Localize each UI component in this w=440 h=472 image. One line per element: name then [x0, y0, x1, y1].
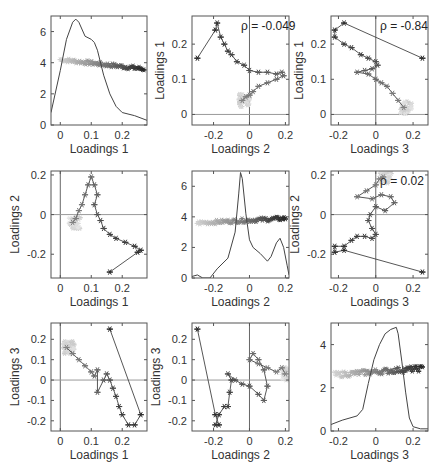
y-tick-label: 4 — [320, 339, 326, 351]
x-tick-label: 0 — [57, 129, 63, 141]
x-tick-label: 0 — [246, 282, 252, 294]
x-tick-label: -0.2 — [329, 129, 348, 141]
y-tick-label: 0.1 — [172, 73, 187, 85]
y-tick-label: 2 — [320, 382, 326, 394]
trajectory-line — [197, 23, 283, 100]
panel-2-3: -0.200.2-0.200.2Loadings 3Loadings 2ρ = … — [288, 169, 428, 309]
x-tick-label: 0 — [373, 435, 379, 447]
x-tick-label: -0.2 — [204, 129, 223, 141]
y-tick-label: 0 — [40, 119, 46, 131]
axes-frame — [51, 171, 147, 278]
panel-1-1: 00.10.20246Loadings 1 — [40, 16, 147, 156]
x-axis-label: Loadings 3 — [350, 142, 409, 156]
panel-2-1: 00.10.2-0.200.2Loadings 1Loadings 2 — [8, 169, 147, 309]
x-axis-label: Loadings 2 — [211, 448, 270, 462]
x-tick-label: 0.2 — [405, 282, 420, 294]
panel-3-2: -0.200.2-0.2-0.100.10.2Loadings 2Loading… — [149, 323, 296, 462]
y-axis-label: Loadings 3 — [149, 347, 163, 406]
y-tick-label: 4 — [40, 57, 46, 69]
x-tick-label: 0 — [57, 282, 63, 294]
y-axis-label: Loadings 1 — [292, 41, 306, 100]
y-tick-label: 0.2 — [172, 333, 187, 345]
x-tick-label: 0 — [57, 435, 63, 447]
panel-3-1: 00.10.2-0.2-0.100.10.2Loadings 1Loadings… — [8, 323, 147, 462]
y-tick-label: 0 — [181, 272, 187, 284]
x-tick-label: -0.2 — [204, 282, 223, 294]
y-axis-label: Loadings 2 — [288, 195, 302, 254]
y-tick-label: -0.1 — [168, 394, 187, 406]
y-tick-label: 0.2 — [172, 38, 187, 50]
y-axis-label: Loadings 1 — [153, 41, 167, 100]
y-tick-label: 0 — [320, 425, 326, 437]
panel-1-2: -0.200.200.10.2Loadings 2Loadings 1ρ = -… — [153, 16, 296, 156]
x-tick-label: 0.2 — [278, 282, 293, 294]
y-tick-label: 0.1 — [172, 354, 187, 366]
y-tick-label: -0.2 — [27, 248, 46, 260]
x-axis-label: Loadings 1 — [70, 142, 129, 156]
x-axis-label: Loadings 1 — [70, 448, 129, 462]
y-tick-label: 4 — [181, 211, 187, 223]
x-tick-label: 0.2 — [405, 129, 420, 141]
y-axis-label: Loadings 2 — [8, 195, 22, 254]
density-curve — [51, 19, 147, 120]
x-tick-label: -0.2 — [329, 282, 348, 294]
y-tick-label: 6 — [181, 180, 187, 192]
y-tick-label: 0.1 — [31, 354, 46, 366]
trajectory-line — [197, 329, 285, 425]
x-axis-label: Loadings 2 — [211, 295, 270, 309]
y-tick-label: -0.2 — [168, 415, 187, 427]
y-tick-label: 0.2 — [311, 38, 326, 50]
x-tick-label: -0.2 — [204, 435, 223, 447]
y-tick-label: -0.2 — [307, 248, 326, 260]
y-tick-label: -0.1 — [27, 394, 46, 406]
panel-3-3: -0.200.2024Loadings 3 — [320, 323, 428, 462]
scatter-matrix-figure: 00.10.20246Loadings 1-0.200.200.10.2Load… — [0, 0, 440, 472]
x-axis-label: Loadings 3 — [350, 295, 409, 309]
y-tick-label: 0 — [40, 374, 46, 386]
x-tick-label: 0.1 — [84, 282, 99, 294]
x-tick-label: 0.2 — [278, 129, 293, 141]
x-tick-label: -0.2 — [329, 435, 348, 447]
correlation-label: ρ = 0.02 — [380, 174, 424, 188]
correlation-label: ρ = -0.049 — [241, 19, 296, 33]
trajectory-line — [335, 177, 423, 272]
panel-1-3: -0.200.200.10.2Loadings 3Loadings 1ρ = -… — [292, 16, 428, 156]
x-axis-label: Loadings 2 — [211, 142, 270, 156]
x-tick-label: 0 — [373, 129, 379, 141]
x-tick-label: 0.1 — [84, 129, 99, 141]
y-tick-label: -0.2 — [27, 415, 46, 427]
y-tick-label: 0 — [320, 209, 326, 221]
x-tick-label: 0 — [373, 282, 379, 294]
y-tick-label: 0 — [181, 108, 187, 120]
y-tick-label: 0 — [181, 374, 187, 386]
y-tick-label: 0 — [40, 209, 46, 221]
x-axis-label: Loadings 1 — [70, 295, 129, 309]
x-tick-label: 0.2 — [115, 282, 130, 294]
y-tick-label: 2 — [181, 241, 187, 253]
x-tick-label: 0.2 — [278, 435, 293, 447]
x-tick-label: 0.1 — [84, 435, 99, 447]
x-axis-label: Loadings 3 — [350, 448, 409, 462]
panel-2-2: -0.200.20246Loadings 2 — [181, 171, 293, 309]
trajectory-line — [66, 329, 140, 425]
correlation-label: ρ = -0.84 — [380, 19, 428, 33]
x-tick-label: 0 — [246, 129, 252, 141]
x-tick-label: 0.2 — [405, 435, 420, 447]
density-curve — [331, 327, 428, 429]
trajectory-line — [73, 177, 141, 272]
y-tick-label: 0.2 — [311, 169, 326, 181]
y-tick-label: 2 — [40, 88, 46, 100]
x-tick-label: 0.2 — [115, 129, 130, 141]
y-tick-label: 0.2 — [31, 169, 46, 181]
x-tick-label: 0 — [246, 435, 252, 447]
axes-frame — [192, 323, 289, 431]
y-tick-label: 6 — [40, 26, 46, 38]
y-tick-label: 0 — [320, 108, 326, 120]
y-axis-label: Loadings 3 — [8, 347, 22, 406]
y-tick-label: 0.1 — [311, 73, 326, 85]
x-tick-label: 0.2 — [115, 435, 130, 447]
y-tick-label: 0.2 — [31, 333, 46, 345]
